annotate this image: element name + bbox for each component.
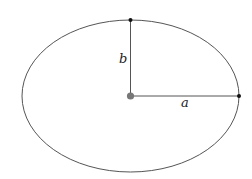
diagram-canvas: b a [0,0,252,179]
ellipse-diagram: b a [0,0,252,179]
center-point [127,92,134,99]
semi-minor-label: b [119,51,127,66]
top-vertex-point [129,18,133,22]
right-vertex-point [237,94,241,98]
semi-major-label: a [181,95,189,110]
